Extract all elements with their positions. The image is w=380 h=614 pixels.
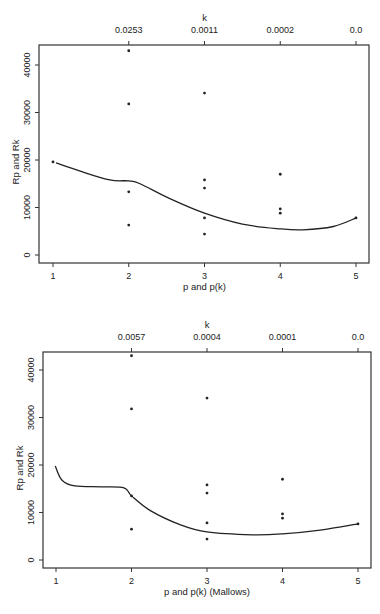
data-point [279,173,282,176]
x-tick-label: 4 [278,271,283,281]
y-axis: 010000200003000040000 [22,52,39,257]
data-point [203,217,206,220]
y-axis: 010000200003000040000 [26,357,43,562]
data-point [206,397,209,400]
data-point [206,492,209,495]
top-tick-label: 0.0011 [191,25,218,35]
data-point [279,208,282,211]
data-points [52,49,358,235]
y-tick-label: 10000 [22,195,32,220]
x-tick-label: 1 [50,271,55,281]
top-tick-label: 0.0057 [118,332,146,342]
data-point [127,190,130,193]
data-point [52,161,55,164]
y-tick-label: 30000 [22,100,32,125]
y-tick-label: 20000 [26,452,36,477]
x-axis-label: p and p(k) [183,281,226,292]
top-tick-label: 0.0 [350,25,363,35]
x-tick-label: 2 [129,576,134,586]
x-axis: 12345 [50,263,358,281]
top-tick-label: 0.0001 [269,332,297,342]
data-point [206,484,209,487]
data-point [355,217,358,220]
y-tick-label: 30000 [26,405,36,430]
plot-area [39,45,369,263]
y-axis-label: Rp and Rk [14,445,25,490]
data-points [130,354,359,540]
top-k-axis: 0.00570.00040.00010.0 [118,332,365,352]
x-axis-label: p and p(k) (Mallows) [164,586,250,597]
data-point [279,212,282,215]
x-tick-label: 3 [202,271,207,281]
data-point [206,538,209,541]
y-tick-label: 0 [26,557,36,562]
data-point [130,408,133,411]
y-tick-label: 10000 [26,500,36,525]
chart-panel-bottom: 12345 010000200003000040000 0.00570.0004… [14,319,371,597]
data-point [281,478,284,481]
data-point [203,92,206,95]
data-point [127,224,130,227]
x-tick-label: 2 [126,271,131,281]
data-point [127,49,130,52]
top-tick-label: 0.0253 [115,25,143,35]
top-k-axis: 0.02530.00110.00020.0 [115,25,362,45]
data-point [281,513,284,516]
data-point [206,522,209,525]
top-axis-label: k [205,319,210,330]
data-point [130,354,133,357]
chart-panel-top: 12345 010000200003000040000 0.02530.0011… [10,12,369,292]
x-tick-label: 1 [53,576,58,586]
data-point [281,517,284,520]
x-tick-label: 4 [280,576,285,586]
data-point [130,528,133,531]
y-tick-label: 40000 [26,357,36,382]
x-tick-label: 5 [353,271,358,281]
x-tick-label: 3 [204,576,209,586]
top-tick-label: 0.0 [352,332,365,342]
data-point [203,233,206,236]
data-point [203,187,206,190]
plot-area [43,352,371,568]
x-tick-label: 5 [355,576,360,586]
data-point [127,103,130,106]
chart-canvas: 12345 010000200003000040000 0.02530.0011… [0,0,380,614]
y-tick-label: 40000 [22,52,32,77]
y-axis-label: Rp and Rk [10,139,21,184]
y-tick-label: 20000 [22,147,32,172]
top-tick-label: 0.0002 [266,25,294,35]
data-point [203,179,206,182]
top-tick-label: 0.0004 [193,332,221,342]
top-axis-label: k [202,12,207,23]
smooth-curve [55,466,358,535]
data-point [130,494,133,497]
data-point [357,523,360,526]
x-axis: 12345 [53,568,360,586]
y-tick-label: 0 [22,252,32,257]
smooth-curve [56,163,356,230]
